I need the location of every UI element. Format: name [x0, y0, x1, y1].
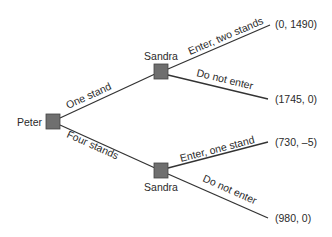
node-sandra-top: [154, 64, 168, 79]
payoff-3: (730, –5): [275, 136, 317, 148]
node-peter: [46, 114, 60, 129]
edge-label-one-stand: One stand: [64, 80, 113, 111]
edge-label-four-stands: Four stands: [65, 128, 121, 162]
payoff-2: (1745, 0): [275, 93, 317, 105]
player-label-sandra-bottom: Sandra: [144, 181, 178, 193]
player-label-peter: Peter: [17, 116, 43, 128]
game-tree-diagram: Peter Sandra Sandra One stand Four stand…: [0, 0, 332, 237]
edge-label-enter-two-stands: Enter, two stands: [186, 14, 265, 57]
payoff-1: (0, 1490): [275, 18, 317, 30]
payoff-4: (980, 0): [275, 212, 311, 224]
edge-label-do-not-enter-top: Do not enter: [196, 66, 255, 91]
node-sandra-bottom: [154, 163, 168, 178]
player-label-sandra-top: Sandra: [144, 50, 178, 62]
